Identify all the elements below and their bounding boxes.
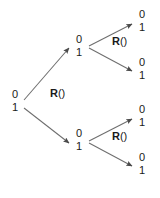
node-bit-top: 0 [135,8,149,21]
node-bit-top: 0 [135,151,149,164]
tree-leaf-1: 0 1 [135,8,149,34]
node-bit-top: 0 [8,88,22,101]
node-bit-bottom: 1 [72,140,86,153]
node-bit-bottom: 1 [135,69,149,82]
tree-node-level1-lower: 0 1 [72,127,86,153]
node-bit-top: 0 [72,127,86,140]
tree-leaf-3: 0 1 [135,103,149,129]
operator-label-lower: R() [112,130,127,142]
operator-name: R [112,130,120,142]
operator-args: () [58,87,65,99]
branching-diagram-figure: 0 1 0 1 0 1 0 1 0 1 0 1 0 1 R() R() R() [0,0,160,198]
edge-root-down [24,108,69,143]
tree-leaf-4: 0 1 [135,151,149,177]
operator-name: R [112,35,120,47]
node-bit-bottom: 1 [8,101,22,114]
edge-n1-down [89,143,132,166]
node-bit-bottom: 1 [135,21,149,34]
edge-n0-down [89,48,132,71]
tree-leaf-2: 0 1 [135,56,149,82]
operator-label-upper: R() [112,35,127,47]
node-bit-top: 0 [72,33,86,46]
node-bit-bottom: 1 [135,116,149,129]
operator-label-root: R() [50,87,65,99]
node-bit-top: 0 [135,103,149,116]
operator-args: () [120,130,127,142]
node-bit-bottom: 1 [135,164,149,177]
tree-node-root: 0 1 [8,88,22,114]
operator-name: R [50,87,58,99]
node-bit-bottom: 1 [72,46,86,59]
operator-args: () [120,35,127,47]
node-bit-top: 0 [135,56,149,69]
tree-node-level1-upper: 0 1 [72,33,86,59]
